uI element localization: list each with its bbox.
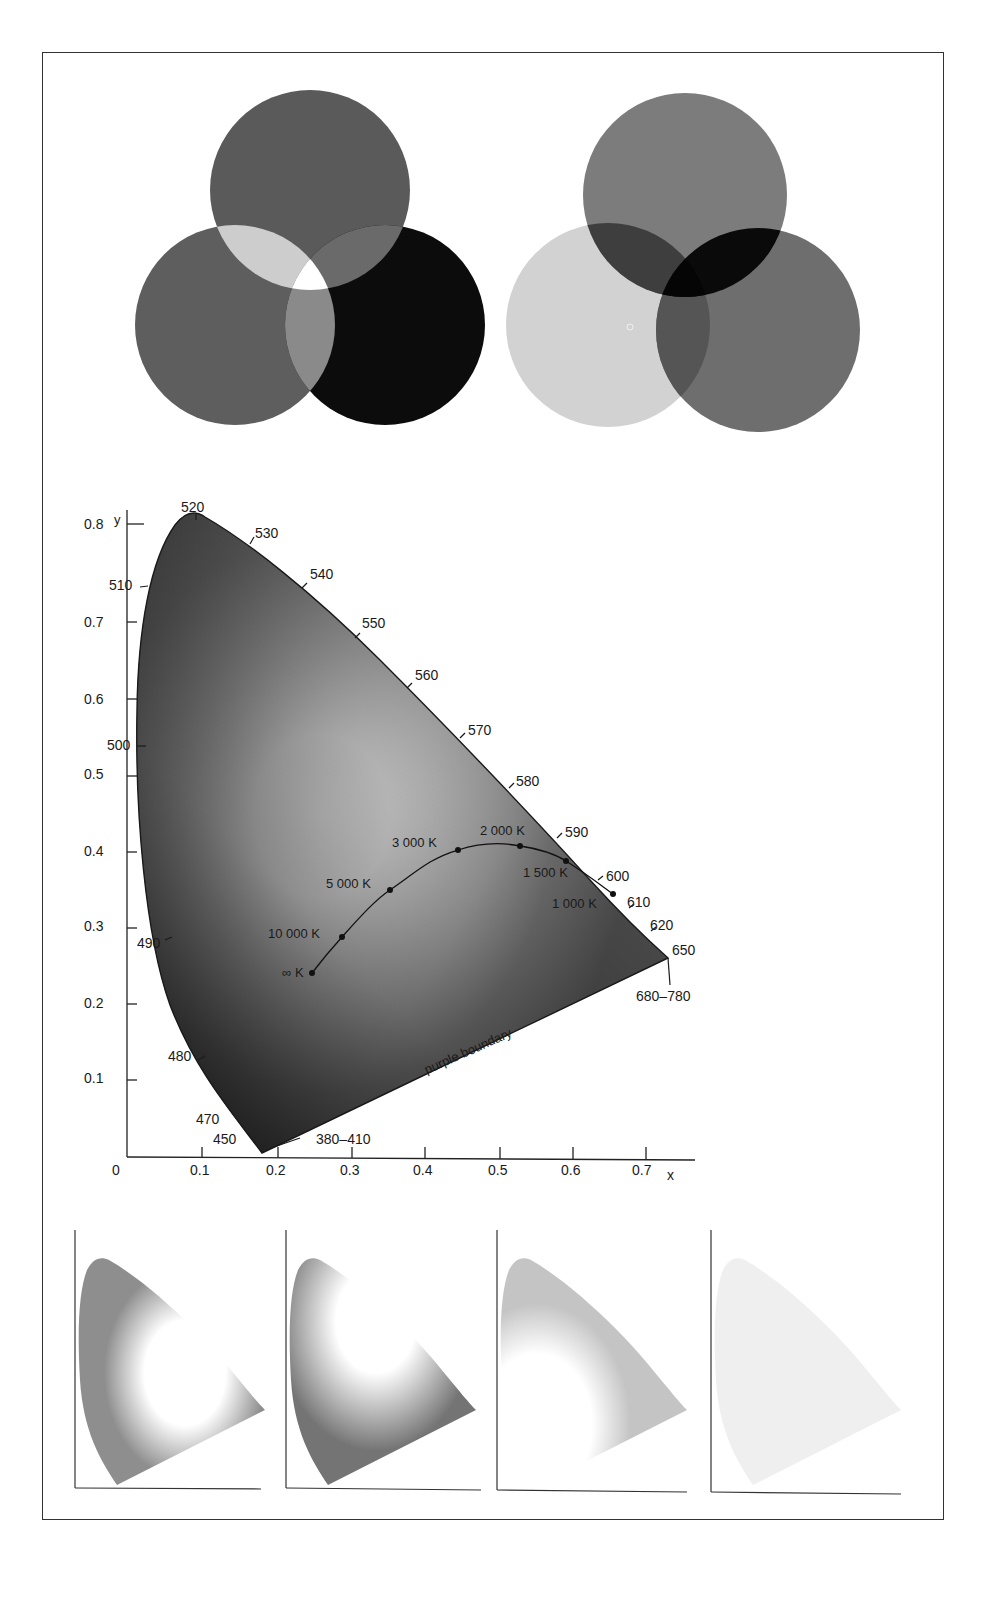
wl-520: 520 bbox=[181, 499, 204, 515]
y-tick-0.5: 0.5 bbox=[84, 766, 103, 782]
color-mixing-figures bbox=[0, 0, 1008, 470]
x-tick-0.6: 0.6 bbox=[561, 1162, 580, 1178]
temp-1000: 1 000 K bbox=[552, 896, 597, 911]
y-tick-0.1: 0.1 bbox=[84, 1070, 103, 1086]
x-tick-0.4: 0.4 bbox=[413, 1162, 432, 1178]
y-tick-0.7: 0.7 bbox=[84, 614, 103, 630]
small-chromaticity-panels bbox=[0, 1215, 1008, 1495]
x-tick-0.1: 0.1 bbox=[190, 1162, 209, 1178]
x-axis bbox=[127, 1147, 695, 1160]
x-tick-0.2: 0.2 bbox=[266, 1162, 285, 1178]
y-tick-0.2: 0.2 bbox=[84, 995, 103, 1011]
wl-590: 590 bbox=[565, 824, 588, 840]
panel-2 bbox=[286, 1230, 486, 1490]
wl-530: 530 bbox=[255, 525, 278, 541]
y-axis-label: y bbox=[114, 512, 121, 527]
y-tick-0.6: 0.6 bbox=[84, 691, 103, 707]
wl-610: 610 bbox=[627, 894, 650, 910]
wl-470: 470 bbox=[196, 1111, 219, 1127]
wl-680-780: 680–780 bbox=[636, 988, 691, 1004]
wl-490: 490 bbox=[137, 935, 160, 951]
temp-2000: 2 000 K bbox=[480, 823, 525, 838]
x-tick-0.7: 0.7 bbox=[632, 1162, 651, 1178]
panel-3 bbox=[497, 1230, 697, 1492]
x-tick-0.3: 0.3 bbox=[340, 1162, 359, 1178]
wl-550: 550 bbox=[362, 615, 385, 631]
wl-540: 540 bbox=[310, 566, 333, 582]
panel-1 bbox=[75, 1230, 275, 1490]
wl-600: 600 bbox=[606, 868, 629, 884]
temp-1500: 1 500 K bbox=[523, 865, 568, 880]
wl-380-410: 380–410 bbox=[316, 1131, 371, 1147]
y-tick-0.4: 0.4 bbox=[84, 843, 103, 859]
wl-500: 500 bbox=[107, 737, 130, 753]
temp-10000: 10 000 K bbox=[268, 926, 320, 941]
y-tick-0.3: 0.3 bbox=[84, 918, 103, 934]
x-tick-0.5: 0.5 bbox=[488, 1162, 507, 1178]
wl-570: 570 bbox=[468, 722, 491, 738]
additive-mixing-circles bbox=[135, 90, 485, 425]
x-axis-label: x bbox=[667, 1167, 674, 1183]
panel-4 bbox=[711, 1230, 911, 1494]
y-tick-0.8: 0.8 bbox=[84, 516, 103, 532]
wl-450: 450 bbox=[213, 1131, 236, 1147]
wl-580: 580 bbox=[516, 773, 539, 789]
subtractive-mixing-circles bbox=[506, 93, 860, 432]
chromaticity-diagram bbox=[0, 480, 1008, 1200]
temp-inf: ∞ K bbox=[282, 965, 304, 980]
wl-650: 650 bbox=[672, 942, 695, 958]
temp-3000: 3 000 K bbox=[392, 835, 437, 850]
origin-label: 0 bbox=[112, 1162, 120, 1178]
wl-560: 560 bbox=[415, 667, 438, 683]
wl-620: 620 bbox=[650, 917, 673, 933]
wl-480: 480 bbox=[168, 1048, 191, 1064]
wl-510: 510 bbox=[109, 577, 132, 593]
temp-5000: 5 000 K bbox=[326, 876, 371, 891]
